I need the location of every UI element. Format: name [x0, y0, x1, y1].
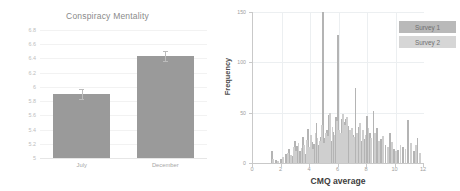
histogram-bar[interactable] — [382, 136, 384, 163]
histogram-panel: Frequency 050100150 Survey 1Survey 2 024… — [215, 0, 440, 191]
histogram-bar[interactable] — [277, 161, 279, 163]
bar-chart-gridline — [40, 44, 207, 45]
histogram-bar[interactable] — [419, 153, 421, 163]
bar-chart-y-tick-label: 6.6 — [29, 41, 37, 47]
bar-chart-title: Conspiracy Mentality — [0, 11, 215, 21]
histogram-bar[interactable] — [387, 147, 389, 163]
histogram-bar[interactable] — [298, 143, 300, 163]
bar-chart-x-axis-labels: JulyDecember — [40, 162, 207, 176]
bar-chart-y-tick-label: 5.2 — [29, 141, 37, 147]
histogram-bar[interactable] — [356, 133, 358, 163]
histogram-y-tick-mark — [249, 62, 252, 63]
histogram-bar[interactable] — [400, 145, 402, 163]
histogram-bar[interactable] — [362, 130, 364, 163]
histogram-gridline-vertical — [282, 12, 283, 163]
bar-chart-y-tick-label: 5 — [33, 155, 36, 161]
histogram-legend: Survey 1Survey 2 — [399, 21, 460, 51]
histogram-x-tick-mark — [423, 164, 424, 167]
bar-chart-y-axis-labels: 55.25.45.65.866.26.46.66.8 — [0, 30, 38, 158]
histogram-bar[interactable] — [365, 135, 367, 163]
histogram-y-tick-label: 100 — [237, 59, 246, 65]
histogram-bar[interactable] — [287, 153, 289, 163]
histogram-y-tick-label: 0 — [243, 160, 246, 166]
histogram-bar[interactable] — [303, 145, 305, 163]
histogram-x-tick-mark — [366, 164, 367, 167]
bar-chart-y-tick-label: 5.4 — [29, 127, 37, 133]
histogram-bar[interactable] — [391, 142, 393, 163]
histogram-bar[interactable] — [351, 128, 353, 163]
histogram-bar[interactable] — [415, 145, 417, 163]
histogram-bar[interactable] — [405, 149, 407, 163]
histogram-y-tick-label: 50 — [240, 110, 246, 116]
histogram-bar[interactable] — [282, 157, 284, 163]
histogram-y-tick-label: 150 — [237, 9, 246, 15]
histogram-bar[interactable] — [402, 147, 404, 163]
histogram-bar[interactable] — [272, 159, 274, 163]
histogram-x-tick-mark — [309, 164, 310, 167]
bar-chart-y-tick-label: 6.8 — [29, 27, 37, 33]
bar-chart-x-tick-label: July — [77, 162, 87, 168]
histogram-bar[interactable] — [370, 138, 372, 163]
bar-chart-gridline — [40, 30, 207, 31]
histogram-y-tick-mark — [249, 113, 252, 114]
histogram-x-tick-mark — [252, 164, 253, 167]
bar-chart-panel: Conspiracy Mentality 55.25.45.65.866.26.… — [0, 0, 215, 191]
bar-chart-error-bar-cap — [163, 61, 168, 62]
histogram-x-tick-mark — [395, 164, 396, 167]
histogram-x-tick-mark — [281, 164, 282, 167]
bar-chart-y-tick-label: 6 — [33, 84, 36, 90]
histogram-gridline-vertical — [396, 12, 397, 163]
histogram-bar[interactable] — [301, 148, 303, 163]
histogram-bar[interactable] — [407, 120, 409, 163]
bar-chart-x-axis-line — [40, 158, 207, 159]
bar-chart-y-tick-label: 6.2 — [29, 70, 37, 76]
bar-chart-error-bar-cap — [79, 99, 84, 100]
legend-swatch-label: Survey 2 — [399, 36, 456, 48]
histogram-x-axis-title: CMQ average — [252, 176, 424, 186]
legend-item[interactable]: Survey 1 — [399, 21, 460, 33]
bar-chart-y-tick-label: 6.4 — [29, 55, 37, 61]
histogram-y-axis-labels: 050100150 — [215, 12, 249, 164]
bar-chart-error-bar — [82, 89, 83, 99]
histogram-bar[interactable] — [359, 123, 361, 163]
histogram-bar[interactable] — [378, 141, 380, 163]
bar-chart-bar[interactable] — [53, 94, 110, 158]
histogram-bar[interactable] — [290, 155, 292, 163]
histogram-bar[interactable] — [374, 133, 376, 163]
bar-chart-bar[interactable] — [137, 56, 194, 158]
histogram-x-tick-mark — [338, 164, 339, 167]
legend-swatch-label: Survey 1 — [399, 21, 456, 33]
bar-chart-error-bar-cap — [163, 51, 168, 52]
histogram-plot-area: Survey 1Survey 2 — [252, 12, 424, 164]
histogram-y-tick-mark — [249, 12, 252, 13]
histogram-bar[interactable] — [395, 151, 397, 163]
bar-chart-error-bar — [165, 51, 166, 61]
bar-chart-plot-area — [40, 30, 207, 158]
histogram-bar[interactable] — [353, 137, 355, 163]
bar-chart-error-bar-cap — [79, 89, 84, 90]
legend-item[interactable]: Survey 2 — [399, 36, 460, 48]
histogram-bar[interactable] — [368, 128, 370, 163]
bar-chart-y-tick-label: 5.8 — [29, 98, 37, 104]
bar-chart-x-tick-label: December — [152, 162, 179, 168]
histogram-bar[interactable] — [295, 151, 297, 163]
histogram-bar[interactable] — [410, 143, 412, 163]
bar-chart-y-tick-label: 5.6 — [29, 112, 37, 118]
